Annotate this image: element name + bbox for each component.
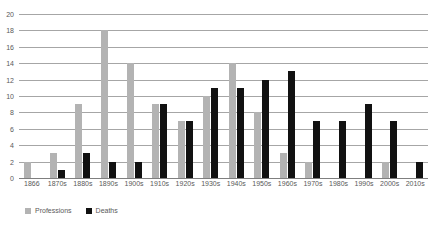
bar-death <box>186 121 193 178</box>
y-axis-tick-label: 6 <box>10 125 14 132</box>
x-axis-labels: 18661870s1880s1890s1900s1910s1920s1930s1… <box>19 180 428 188</box>
bar-group <box>326 14 352 178</box>
bar-death <box>339 121 346 178</box>
bar-group <box>275 14 301 178</box>
bar-group <box>172 14 198 178</box>
bar-death <box>58 170 65 178</box>
x-axis-tick-label: 1866 <box>19 180 45 188</box>
bar-group <box>249 14 275 178</box>
y-axis-tick-label: 0 <box>10 175 14 182</box>
x-axis-tick-label: 1910s <box>147 180 173 188</box>
bar-prof <box>75 104 82 178</box>
bar-group <box>121 14 147 178</box>
bar-prof <box>24 162 31 178</box>
bar-death <box>109 162 116 178</box>
chart-container: 20181614121086420 18661870s1880s1890s190… <box>0 0 434 229</box>
y-axis-tick-label: 18 <box>6 27 14 34</box>
bar-prof <box>229 63 236 178</box>
bar-group <box>224 14 250 178</box>
legend-item[interactable]: Professions <box>25 207 72 214</box>
x-axis-tick-label: 2010s <box>402 180 428 188</box>
x-axis-tick-label: 1980s <box>326 180 352 188</box>
plot-area <box>19 14 428 178</box>
x-axis-tick-label: 1880s <box>70 180 96 188</box>
chart-legend: ProfessionsDeaths <box>25 207 118 214</box>
bar-prof <box>127 63 134 178</box>
x-axis-tick-label: 1960s <box>275 180 301 188</box>
legend-swatch-prof <box>25 208 31 214</box>
x-axis-tick-label: 1900s <box>121 180 147 188</box>
bar-death <box>416 162 423 178</box>
x-axis-tick-label: 1930s <box>198 180 224 188</box>
bar-death <box>390 121 397 178</box>
bar-group <box>147 14 173 178</box>
legend-swatch-death <box>86 208 92 214</box>
x-axis-tick-label: 1990s <box>351 180 377 188</box>
y-axis-tick-label: 2 <box>10 158 14 165</box>
y-axis-tick-label: 12 <box>6 76 14 83</box>
legend-label: Deaths <box>96 207 118 214</box>
bar-group <box>300 14 326 178</box>
y-axis-tick-label: 20 <box>6 11 14 18</box>
x-axis-tick-label: 1920s <box>172 180 198 188</box>
axis-baseline <box>19 178 428 179</box>
bar-group <box>96 14 122 178</box>
y-axis-tick-label: 14 <box>6 60 14 67</box>
bar-group <box>198 14 224 178</box>
bar-death <box>288 71 295 178</box>
bar-prof <box>101 30 108 178</box>
y-axis-labels: 20181614121086420 <box>0 14 17 178</box>
bar-death <box>83 153 90 178</box>
bar-death <box>237 88 244 178</box>
x-axis-tick-label: 1940s <box>224 180 250 188</box>
legend-label: Professions <box>35 207 72 214</box>
bar-group <box>351 14 377 178</box>
x-axis-tick-label: 1890s <box>96 180 122 188</box>
bar-death <box>365 104 372 178</box>
x-axis-tick-label: 1870s <box>45 180 71 188</box>
y-axis-tick-label: 10 <box>6 93 14 100</box>
bar-prof <box>178 121 185 178</box>
bar-prof <box>280 153 287 178</box>
bar-group <box>402 14 428 178</box>
bar-group <box>377 14 403 178</box>
bar-prof <box>305 162 312 178</box>
x-axis-tick-label: 2000s <box>377 180 403 188</box>
bar-death <box>160 104 167 178</box>
legend-item[interactable]: Deaths <box>86 207 118 214</box>
bar-death <box>313 121 320 178</box>
bar-prof <box>50 153 57 178</box>
x-axis-tick-label: 1950s <box>249 180 275 188</box>
y-axis-tick-label: 16 <box>6 43 14 50</box>
y-axis-tick-label: 4 <box>10 142 14 149</box>
bar-death <box>262 80 269 178</box>
y-axis-tick-label: 8 <box>10 109 14 116</box>
bar-death <box>211 88 218 178</box>
bar-groups <box>19 14 428 178</box>
bar-group <box>45 14 71 178</box>
bar-prof <box>203 96 210 178</box>
bar-prof <box>254 112 261 178</box>
chart-title <box>0 0 434 1</box>
bar-prof <box>382 162 389 178</box>
bar-group <box>70 14 96 178</box>
bar-group <box>19 14 45 178</box>
bar-prof <box>152 104 159 178</box>
bar-death <box>135 162 142 178</box>
x-axis-tick-label: 1970s <box>300 180 326 188</box>
